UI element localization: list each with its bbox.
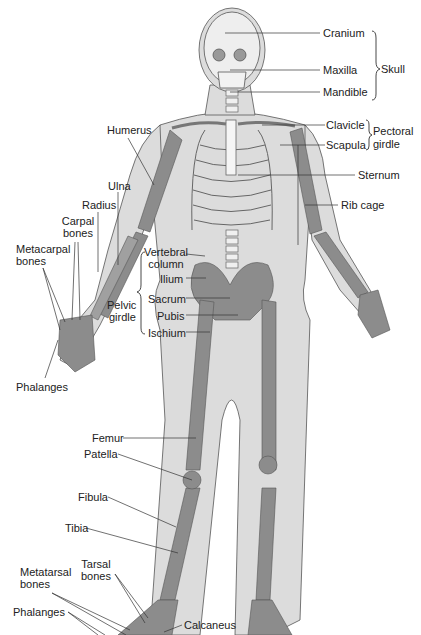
label-ischium: Ischium	[148, 327, 186, 339]
label-maxilla: Maxilla	[323, 64, 357, 76]
label-phalanges-hand: Phalanges	[16, 381, 68, 393]
label-cranium: Cranium	[323, 27, 365, 39]
label-metatarsal: Metatarsal	[20, 566, 71, 578]
label-fibula: Fibula	[78, 491, 108, 503]
label-vertebral: Vertebral	[142, 246, 190, 258]
label-sacrum: Sacrum	[148, 293, 186, 305]
label-calcaneus: Calcaneus	[184, 619, 236, 631]
label-pectoral-girdle: girdle	[373, 138, 400, 150]
label-tarsal-bones: bones	[78, 570, 114, 582]
label-pectoral: Pectoral	[373, 125, 413, 137]
label-metatarsal-bones: bones	[20, 578, 50, 590]
label-rib-cage: Rib cage	[341, 199, 384, 211]
label-femur: Femur	[92, 432, 124, 444]
label-phalanges-foot: Phalanges	[13, 606, 65, 618]
label-patella: Patella	[84, 448, 118, 460]
label-pelvic-girdle: girdle	[109, 311, 136, 323]
label-humerus: Humerus	[107, 124, 152, 136]
label-tarsal: Tarsal	[78, 558, 114, 570]
label-radius: Radius	[82, 199, 116, 211]
skeleton-diagram: Cranium Maxilla Mandible Skull Clavicle …	[0, 0, 421, 635]
label-skull: Skull	[381, 63, 405, 75]
label-pelvic: Pelvic	[107, 299, 136, 311]
label-sternum: Sternum	[358, 169, 400, 181]
label-metacarpal: Metacarpal	[16, 243, 70, 255]
label-tibia: Tibia	[65, 522, 88, 534]
label-mandible: Mandible	[323, 86, 368, 98]
label-pubis: Pubis	[157, 310, 185, 322]
label-scapula: Scapula	[326, 139, 366, 151]
label-ulna: Ulna	[108, 180, 131, 192]
label-metacarpal-bones: bones	[16, 255, 46, 267]
sternum-shape	[226, 120, 236, 175]
label-carpal-bones: bones	[58, 227, 98, 239]
label-clavicle: Clavicle	[326, 119, 365, 131]
label-vertebral-column: column	[142, 258, 190, 270]
label-carpal: Carpal	[58, 215, 98, 227]
label-ilium: Ilium	[160, 273, 183, 285]
